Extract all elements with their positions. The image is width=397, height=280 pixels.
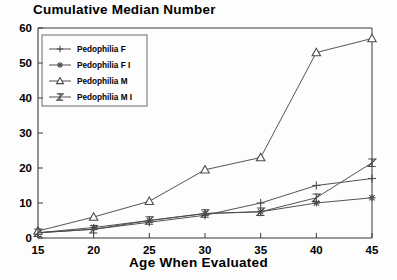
series-line <box>38 179 372 233</box>
y-axis-tick-labels: 0102030405060 <box>19 22 32 244</box>
legend-items: Pedophilia FPedophilia F IPedophilia MPe… <box>49 45 132 102</box>
plot-area: 0102030405060 15202530354045 Pedophilia … <box>0 0 397 280</box>
asterisk-marker-icon <box>57 62 63 68</box>
x-axis-title: Age When Evaluated <box>0 255 397 270</box>
legend-item-label: Pedophilia M <box>77 77 128 86</box>
chart-screenshot: Cumulative Median Number 0102030405060 1… <box>0 0 397 280</box>
legend-item-label: Pedophilia F I <box>77 61 130 70</box>
triangle-marker-icon <box>145 197 153 204</box>
legend-item-3: Pedophilia M I <box>49 93 132 102</box>
plus-marker-icon <box>312 182 320 190</box>
y-tick-label: 50 <box>19 57 32 69</box>
x-axis-ticks <box>38 233 372 238</box>
plot-frame <box>38 28 372 238</box>
y-tick-label: 40 <box>19 92 32 104</box>
y-tick-label: 10 <box>19 197 32 209</box>
bowtie-marker-icon <box>368 158 376 167</box>
series-0 <box>34 175 376 237</box>
asterisk-marker-icon <box>368 194 375 201</box>
triangle-marker-icon <box>256 153 264 160</box>
line-chart-svg: 0102030405060 15202530354045 Pedophilia … <box>0 0 397 280</box>
legend-item-1: Pedophilia F I <box>49 61 130 70</box>
y-tick-label: 20 <box>19 162 32 174</box>
legend-item-label: Pedophilia M I <box>77 93 132 102</box>
legend-item-label: Pedophilia F <box>77 45 126 54</box>
legend-item-2: Pedophilia M <box>49 77 128 86</box>
triangle-marker-icon <box>368 34 376 41</box>
plus-marker-icon <box>368 175 376 183</box>
legend-item-0: Pedophilia F <box>49 45 126 54</box>
y-tick-label: 0 <box>26 232 32 244</box>
legend: Pedophilia FPedophilia F IPedophilia MPe… <box>42 35 147 106</box>
plus-marker-icon <box>57 46 64 53</box>
y-tick-label: 30 <box>19 127 32 139</box>
y-tick-label: 60 <box>19 22 32 34</box>
plus-marker-icon <box>257 199 265 207</box>
